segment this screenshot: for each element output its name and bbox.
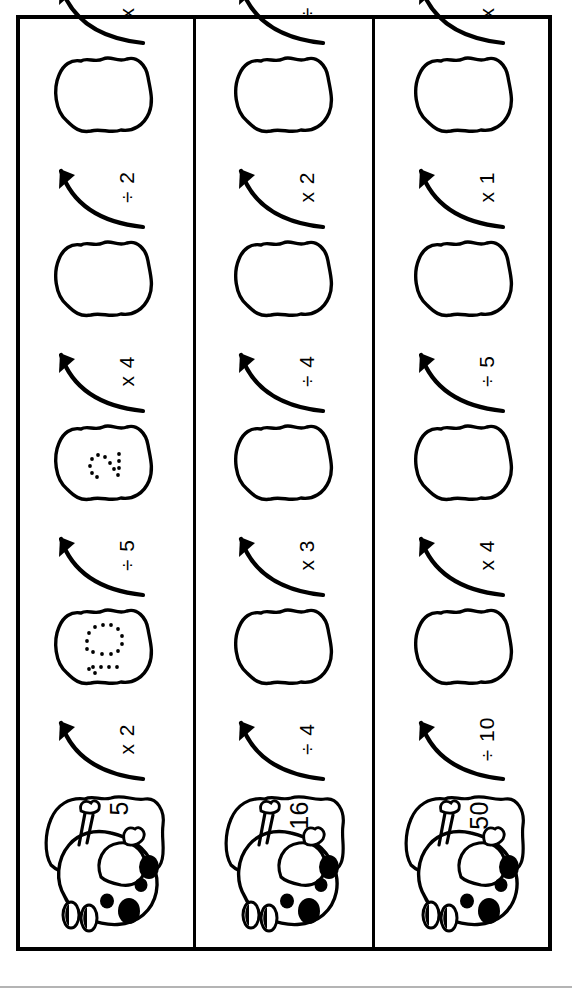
answer-rock[interactable] bbox=[209, 601, 359, 693]
curved-arrow-icon bbox=[407, 509, 519, 601]
frog-start-cell: 50 bbox=[389, 785, 539, 937]
operation-label: x 4 bbox=[475, 509, 499, 601]
answer-rock[interactable] bbox=[209, 49, 359, 141]
answer-rock[interactable] bbox=[389, 417, 539, 509]
operation-label: ÷ 4 bbox=[295, 693, 319, 785]
rock-shape-icon bbox=[49, 233, 161, 325]
worksheet-stage: 5x 210÷ 52x 4÷ 2x 516÷ 4x 3÷ 4x 2÷ 350÷ … bbox=[0, 0, 572, 988]
operation-step: x 4 bbox=[389, 509, 539, 601]
operation-step: x 2 bbox=[209, 141, 359, 233]
operation-label: x 5 bbox=[115, 0, 139, 49]
answer-value: 2 bbox=[97, 417, 120, 509]
answer-value: 10 bbox=[97, 601, 120, 693]
start-value: 16 bbox=[287, 801, 312, 830]
curved-arrow-icon bbox=[47, 693, 159, 785]
curved-arrow-icon bbox=[227, 0, 339, 49]
operation-step: ÷ 5 bbox=[389, 325, 539, 417]
curved-arrow-icon bbox=[227, 325, 339, 417]
curved-arrow-icon bbox=[47, 141, 159, 233]
operation-step: ÷ 2 bbox=[29, 141, 179, 233]
answer-rock[interactable] bbox=[389, 233, 539, 325]
frog-start-cell: 5 bbox=[29, 785, 179, 937]
rock-shape-icon bbox=[409, 233, 521, 325]
operation-step: x 5 bbox=[29, 0, 179, 49]
frog-icon bbox=[389, 785, 539, 937]
operation-label: ÷ 5 bbox=[475, 325, 499, 417]
rock-shape-icon bbox=[229, 417, 341, 509]
operation-label: ÷ 5 bbox=[115, 509, 139, 601]
answer-rock[interactable] bbox=[389, 49, 539, 141]
frog-start-cell: 16 bbox=[209, 785, 359, 937]
operation-step: x 2 bbox=[29, 693, 179, 785]
operation-step: ÷ 4 bbox=[209, 693, 359, 785]
answer-rock[interactable] bbox=[389, 601, 539, 693]
rock-shape-icon bbox=[229, 601, 341, 693]
chain-row: 50÷ 10x 4÷ 5x 1x 4 bbox=[375, 15, 552, 951]
operation-label: x 1 bbox=[475, 141, 499, 233]
answer-rock[interactable] bbox=[209, 233, 359, 325]
operation-step: x 3 bbox=[209, 509, 359, 601]
answer-rock[interactable] bbox=[209, 417, 359, 509]
operation-step: x 4 bbox=[389, 0, 539, 49]
rock-shape-icon bbox=[229, 233, 341, 325]
operation-label: x 2 bbox=[295, 141, 319, 233]
curved-arrow-icon bbox=[407, 693, 519, 785]
rock-shape-icon bbox=[409, 417, 521, 509]
chain-row: 5x 210÷ 52x 4÷ 2x 5 bbox=[16, 15, 196, 951]
rock-shape-icon bbox=[409, 601, 521, 693]
curved-arrow-icon bbox=[47, 0, 159, 49]
operation-label: ÷ 4 bbox=[295, 325, 319, 417]
start-value: 5 bbox=[107, 801, 132, 815]
operation-step: ÷ 10 bbox=[389, 693, 539, 785]
curved-arrow-icon bbox=[47, 509, 159, 601]
start-value: 50 bbox=[467, 801, 492, 830]
frog-icon bbox=[29, 785, 179, 937]
operation-step: x 1 bbox=[389, 141, 539, 233]
curved-arrow-icon bbox=[407, 141, 519, 233]
rock-shape-icon bbox=[409, 49, 521, 141]
curved-arrow-icon bbox=[227, 509, 339, 601]
answer-rock[interactable]: 10 bbox=[29, 601, 179, 693]
chain-row: 16÷ 4x 3÷ 4x 2÷ 3 bbox=[196, 15, 376, 951]
operation-label: x 3 bbox=[295, 509, 319, 601]
operation-label: x 2 bbox=[115, 693, 139, 785]
answer-rock[interactable] bbox=[29, 233, 179, 325]
operation-label: ÷ 2 bbox=[115, 141, 139, 233]
operation-step: ÷ 4 bbox=[209, 325, 359, 417]
answer-rock[interactable] bbox=[29, 49, 179, 141]
operation-label: ÷ 10 bbox=[475, 693, 499, 785]
curved-arrow-icon bbox=[407, 325, 519, 417]
operation-label: x 4 bbox=[115, 325, 139, 417]
operation-step: ÷ 3 bbox=[209, 0, 359, 49]
frog-icon bbox=[209, 785, 359, 937]
curved-arrow-icon bbox=[47, 325, 159, 417]
answer-rock[interactable]: 2 bbox=[29, 417, 179, 509]
curved-arrow-icon bbox=[407, 0, 519, 49]
curved-arrow-icon bbox=[227, 693, 339, 785]
curved-arrow-icon bbox=[227, 141, 339, 233]
operation-label: x 4 bbox=[475, 0, 499, 49]
operation-step: ÷ 5 bbox=[29, 509, 179, 601]
operation-label: ÷ 3 bbox=[295, 0, 319, 49]
operation-step: x 4 bbox=[29, 325, 179, 417]
rock-shape-icon bbox=[49, 49, 161, 141]
chain-rows-container: 5x 210÷ 52x 4÷ 2x 516÷ 4x 3÷ 4x 2÷ 350÷ … bbox=[16, 15, 552, 951]
rock-shape-icon bbox=[229, 49, 341, 141]
